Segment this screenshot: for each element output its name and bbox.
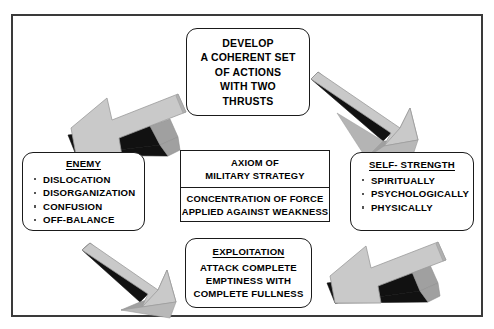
axiom-body-line-1: CONCENTRATION OF FORCE [186,192,323,205]
arrow-develop-to-self-strength [311,72,418,158]
list-item: CONFUSION [34,200,140,214]
exploitation-line-2: EMPTINESS WITH [206,274,291,287]
self-strength-title: SELF- STRENGTH [355,158,469,172]
enemy-title: ENEMY [27,157,140,171]
self-strength-list: SPIRITUALLY PSYCHOLOGICALLY PHYSICALLY [355,174,469,215]
self-strength-box: SELF- STRENGTH SPIRITUALLY PSYCHOLOGICAL… [350,152,474,231]
axiom-body-line-2: APPLIED AGAINST WEAKNESS [182,205,329,218]
develop-box: DEVELOP A COHERENT SET OF ACTIONS WITH T… [186,28,310,116]
exploitation-line-3: COMPLETE FULLNESS [194,287,304,300]
develop-line-2: A COHERENT SET [200,50,295,65]
arrow-develop-to-enemy [68,94,186,156]
exploitation-line-1: ATTACK COMPLETE [200,261,297,274]
axiom-header-line-1: AXIOM OF [185,156,325,169]
list-item: DISLOCATION [34,173,140,187]
axiom-body: CONCENTRATION OF FORCE APPLIED AGAINST W… [181,188,329,221]
develop-line-4: WITH TWO [220,79,276,94]
develop-line-3: OF ACTIONS [215,65,281,80]
axiom-header-line-2: MILITARY STRATEGY [185,169,325,182]
arrow-enemy-to-exploitation [82,243,176,318]
enemy-list: DISLOCATION DISORGANIZATION CONFUSION OF… [27,173,140,227]
list-item: OFF-BALANCE [34,213,140,227]
arrow-self-strength-to-exploitation [327,242,446,303]
list-item: DISORGANIZATION [34,186,140,200]
exploitation-title: EXPLOITATION [213,245,285,258]
enemy-box: ENEMY DISLOCATION DISORGANIZATION CONFUS… [22,152,145,231]
axiom-header: AXIOM OF MILITARY STRATEGY [181,151,329,188]
list-item: PSYCHOLOGICALLY [362,187,469,201]
develop-line-5: THRUSTS [223,94,274,109]
develop-line-1: DEVELOP [222,36,274,51]
list-item: PHYSICALLY [362,201,469,215]
list-item: SPIRITUALLY [362,174,469,188]
exploitation-box: EXPLOITATION ATTACK COMPLETE EMPTINESS W… [185,238,312,308]
axiom-box: AXIOM OF MILITARY STRATEGY CONCENTRATION… [180,150,330,222]
diagram-canvas: DEVELOP A COHERENT SET OF ACTIONS WITH T… [0,0,494,329]
